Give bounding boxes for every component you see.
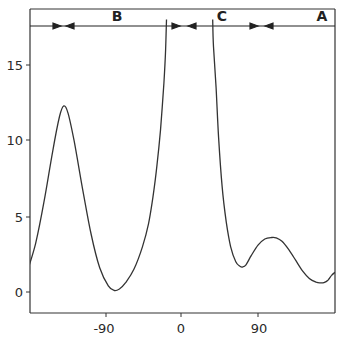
x-tick-label-90: 90 bbox=[251, 321, 268, 336]
y-tick-label-0: 0 bbox=[15, 285, 23, 300]
region-label-b: B bbox=[112, 8, 123, 24]
y-tick-label-10: 10 bbox=[6, 133, 23, 148]
region-label-c: C bbox=[217, 8, 227, 24]
x-tick-label-0: 0 bbox=[177, 321, 185, 336]
arrow-head bbox=[265, 23, 273, 29]
y-tick-label-15: 15 bbox=[6, 58, 23, 73]
chart: B C A 15 10 5 0 -90 0 90 bbox=[0, 0, 344, 344]
arrow-head bbox=[172, 23, 180, 29]
region-arrows bbox=[30, 23, 335, 29]
arrow-head bbox=[188, 23, 196, 29]
y-tick-label-5: 5 bbox=[15, 210, 23, 225]
arrow-head bbox=[53, 23, 61, 29]
arrow-head bbox=[250, 23, 258, 29]
arrow-head bbox=[66, 23, 74, 29]
data-curve bbox=[27, 20, 335, 291]
x-tick-label-m90: -90 bbox=[93, 321, 114, 336]
region-label-a: A bbox=[317, 8, 328, 24]
